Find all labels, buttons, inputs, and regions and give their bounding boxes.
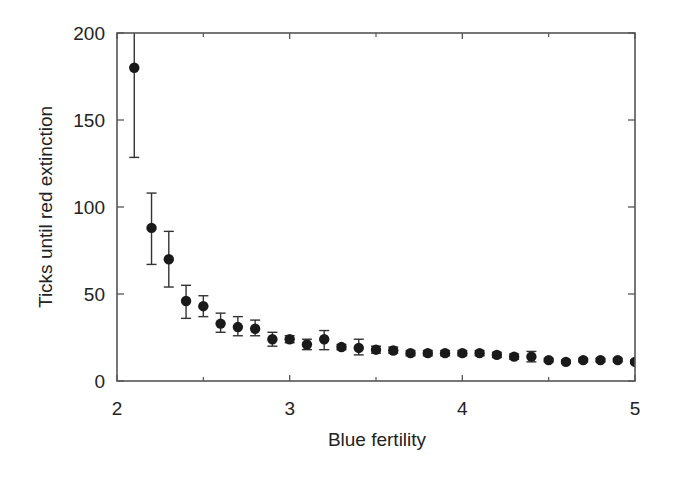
data-point xyxy=(543,355,553,365)
y-tick-label: 100 xyxy=(73,197,105,218)
data-point xyxy=(405,348,415,358)
marker-circle xyxy=(267,334,277,344)
marker-circle xyxy=(543,355,553,365)
marker-circle xyxy=(319,334,329,344)
marker-circle xyxy=(215,318,225,328)
plot-area xyxy=(129,0,640,367)
marker-circle xyxy=(354,343,364,353)
marker-circle xyxy=(336,342,346,352)
y-tick-label: 150 xyxy=(73,110,105,131)
data-point xyxy=(319,331,329,350)
x-tick-label: 5 xyxy=(630,398,641,419)
marker-circle xyxy=(405,348,415,358)
x-tick-label: 2 xyxy=(112,398,123,419)
marker-circle xyxy=(181,296,191,306)
x-axis-label: Blue fertility xyxy=(328,429,427,450)
data-point xyxy=(388,345,398,355)
marker-circle xyxy=(129,63,139,73)
data-point xyxy=(233,317,243,336)
chart: 2345050100150200 Blue fertility Ticks un… xyxy=(0,0,673,477)
axes: 2345050100150200 xyxy=(73,23,640,419)
marker-circle xyxy=(164,254,174,264)
plot-frame xyxy=(117,33,635,381)
data-point xyxy=(613,355,623,365)
data-point xyxy=(215,313,225,332)
data-point xyxy=(440,348,450,358)
marker-circle xyxy=(561,357,571,367)
y-tick-label: 50 xyxy=(84,284,105,305)
marker-circle xyxy=(388,345,398,355)
data-point xyxy=(474,348,484,358)
y-axis-label: Ticks until red extinction xyxy=(35,106,56,308)
data-point xyxy=(336,342,346,352)
marker-circle xyxy=(423,348,433,358)
data-point xyxy=(509,351,519,361)
data-point xyxy=(164,231,174,287)
marker-circle xyxy=(284,334,294,344)
marker-circle xyxy=(250,324,260,334)
marker-circle xyxy=(595,355,605,365)
marker-circle xyxy=(509,351,519,361)
data-point xyxy=(250,320,260,336)
data-point xyxy=(181,285,191,318)
marker-circle xyxy=(457,348,467,358)
data-point xyxy=(129,0,139,157)
data-point xyxy=(267,332,277,346)
data-point xyxy=(457,348,467,358)
data-point xyxy=(354,339,364,355)
data-point xyxy=(146,193,156,264)
data-point xyxy=(578,355,588,365)
x-tick-label: 4 xyxy=(457,398,468,419)
data-point xyxy=(371,344,381,354)
marker-circle xyxy=(578,355,588,365)
marker-circle xyxy=(198,301,208,311)
marker-circle xyxy=(474,348,484,358)
marker-circle xyxy=(440,348,450,358)
y-tick-label: 200 xyxy=(73,23,105,44)
marker-circle xyxy=(526,351,536,361)
marker-circle xyxy=(146,223,156,233)
marker-circle xyxy=(233,322,243,332)
data-point xyxy=(302,339,312,349)
data-point xyxy=(561,357,571,367)
data-point xyxy=(284,334,294,344)
x-tick-label: 3 xyxy=(284,398,295,419)
data-point xyxy=(492,350,502,360)
y-tick-label: 0 xyxy=(94,371,105,392)
data-point xyxy=(526,351,536,361)
data-point xyxy=(595,355,605,365)
marker-circle xyxy=(613,355,623,365)
data-point xyxy=(423,348,433,358)
marker-circle xyxy=(371,344,381,354)
marker-circle xyxy=(302,339,312,349)
marker-circle xyxy=(492,350,502,360)
data-point xyxy=(198,296,208,317)
data-series xyxy=(129,0,640,367)
